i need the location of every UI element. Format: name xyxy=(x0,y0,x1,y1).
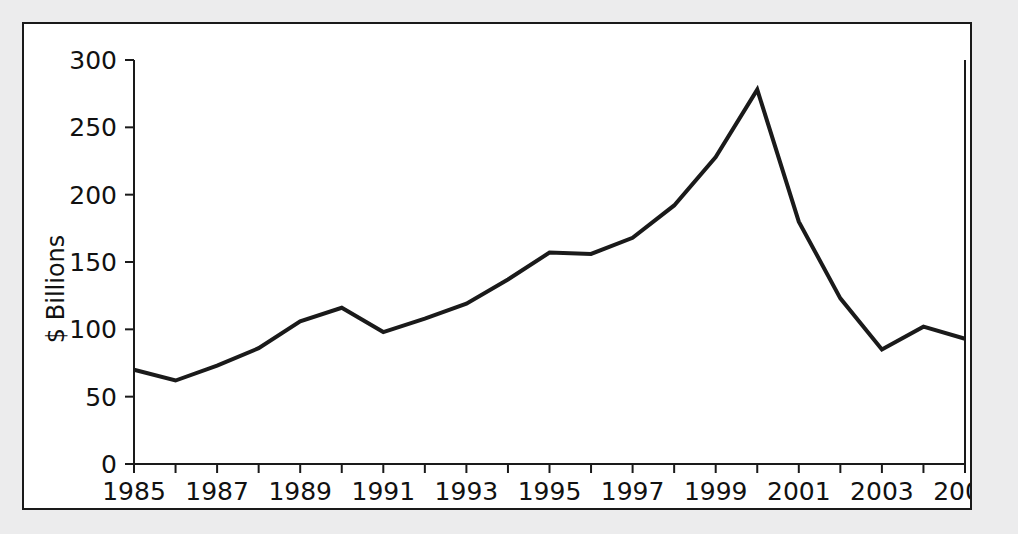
y-axis-tick-label: 250 xyxy=(69,113,117,142)
y-axis-tick-marks xyxy=(125,60,134,464)
y-axis-tick-label: 100 xyxy=(69,315,117,344)
x-axis-tick-label: 2003 xyxy=(850,477,914,506)
data-series-line xyxy=(134,90,965,381)
y-axis-title: $ Billions xyxy=(42,235,70,343)
x-axis-tick-labels: 1985198719891991199319951997199920012003… xyxy=(102,477,970,506)
x-axis-tick-label: 1993 xyxy=(435,477,499,506)
chart-figure-panel: 050100150200250300 198519871989199119931… xyxy=(22,22,972,510)
y-axis-tick-label: 200 xyxy=(69,181,117,210)
x-axis-tick-label: 2005 xyxy=(933,477,970,506)
y-axis-tick-label: 50 xyxy=(85,383,117,412)
x-axis-tick-label: 1999 xyxy=(684,477,748,506)
x-axis-tick-label: 1991 xyxy=(351,477,415,506)
y-axis-tick-labels: 050100150200250300 xyxy=(69,46,117,479)
x-axis-tick-label: 1987 xyxy=(185,477,249,506)
plot-axis-frame xyxy=(134,60,965,464)
y-axis-tick-label: 300 xyxy=(69,46,117,75)
x-axis-tick-label: 1989 xyxy=(268,477,332,506)
x-axis-tick-label: 1995 xyxy=(518,477,582,506)
y-axis-tick-label: 150 xyxy=(69,248,117,277)
x-axis-tick-label: 2001 xyxy=(767,477,831,506)
x-axis-tick-marks xyxy=(134,464,965,473)
x-axis-tick-label: 1997 xyxy=(601,477,665,506)
x-axis-tick-label: 1985 xyxy=(102,477,166,506)
line-chart: 050100150200250300 198519871989199119931… xyxy=(24,24,970,508)
y-axis-tick-label: 0 xyxy=(101,450,117,479)
